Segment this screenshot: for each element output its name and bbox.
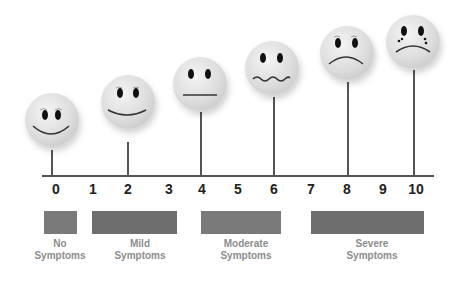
tick-label-3: 3 [165,181,173,197]
category-label-line1: Moderate [220,238,271,250]
tick-label-1: 1 [89,181,97,197]
stick-10 [413,70,415,176]
stick-6 [273,97,275,176]
face-level-0-big-smile-icon [25,93,79,147]
stick-0 [51,150,53,176]
tick-label-9: 9 [379,181,387,197]
face-level-4-neutral-icon [173,57,227,111]
category-label-line2: Symptoms [220,250,271,262]
category-label-line2: Symptoms [114,250,165,262]
tick-label-4: 4 [198,181,206,197]
tick-label-8: 8 [343,181,351,197]
tick-label-0: 0 [52,181,60,197]
category-label-no-symptoms: No Symptoms [34,238,85,262]
face-level-6-wavy-mouth-icon [245,41,299,95]
tick-label-2: 2 [124,181,132,197]
stick-8 [347,82,349,176]
category-label-line2: Symptoms [346,250,397,262]
category-label-mild: Mild Symptoms [114,238,165,262]
stick-4 [200,112,202,176]
stick-2 [127,142,129,176]
tick-label-5: 5 [234,181,242,197]
tick-label-10: 10 [408,181,424,197]
face-level-2-smile-icon [101,75,155,129]
category-label-severe: Severe Symptoms [346,238,397,262]
category-bar-severe [311,211,424,234]
category-label-line2: Symptoms [34,250,85,262]
category-label-line1: Mild [114,238,165,250]
category-bar-mild [92,211,177,234]
category-label-line1: Severe [346,238,397,250]
category-bar-no-symptoms [44,211,77,234]
face-level-10-crying-icon [386,15,440,69]
tick-label-6: 6 [270,181,278,197]
category-label-moderate: Moderate Symptoms [220,238,271,262]
face-level-8-frown-icon [320,26,374,80]
category-bar-moderate [201,211,281,234]
category-label-line1: No [34,238,85,250]
tick-label-7: 7 [307,181,315,197]
scale-axis-line [42,175,434,177]
